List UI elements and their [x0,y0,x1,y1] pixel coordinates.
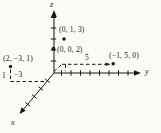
point-dot-m1-5-0 [112,62,115,65]
point-label-2-m3-1: (2, −3, 1) [3,54,33,63]
point-label-0-0-2: (0, 0, 2) [57,45,83,54]
axes-drawing [0,0,161,133]
x-axis-line [22,73,54,111]
point-label-0-1-3: (0, 1, 3) [59,25,85,34]
point-dot-0-1-3 [62,37,65,40]
z-axis-arrowhead [51,10,57,17]
measure-label-m3: −3 [14,70,22,79]
dashed-line-arrowhead [106,63,111,67]
measure-label-1: 1 [2,71,6,80]
z-axis-label: z [50,0,53,9]
point-dot-0-0-2 [52,47,56,51]
y-axis-label: y [145,67,149,76]
coordinate-diagram: z y x (0, 1, 3) (0, 0, 2) (2, −3, 1) (−1… [0,0,161,133]
y-axis-arrowhead [134,70,141,76]
point-dot-2-m3-1 [9,65,12,68]
point-label-m1-5-0: (−1, 5, 0) [109,51,139,60]
x-axis-label: x [11,118,15,127]
measure-label-5: 5 [85,53,89,62]
